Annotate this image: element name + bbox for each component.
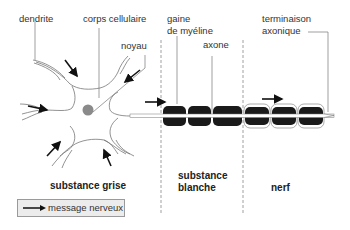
arrow-right-icon [20,200,50,216]
label-gaine-2: de myéline [167,25,213,36]
label-corps-cellulaire: corps cellulaire [83,13,146,24]
label-axone: axone [203,39,229,50]
legend-label: message nerveux [48,202,123,213]
label-terminaison-1: terminaison [262,13,311,24]
label-dendrite: dendrite [19,13,53,24]
legend: message nerveux [17,199,125,217]
region-substance-blanche-1: substance [178,170,227,182]
region-nerf: nerf [271,182,290,194]
region-substance-grise: substance grise [50,180,126,192]
label-terminaison-2: axonique [262,25,301,36]
noyau-leader [93,55,145,112]
axon-core [130,114,334,118]
terminaison-leader [308,32,328,112]
label-gaine-1: gaine [167,13,190,24]
nucleus [83,105,94,116]
label-noyau: noyau [121,40,147,51]
region-substance-blanche-2: blanche [178,182,216,194]
